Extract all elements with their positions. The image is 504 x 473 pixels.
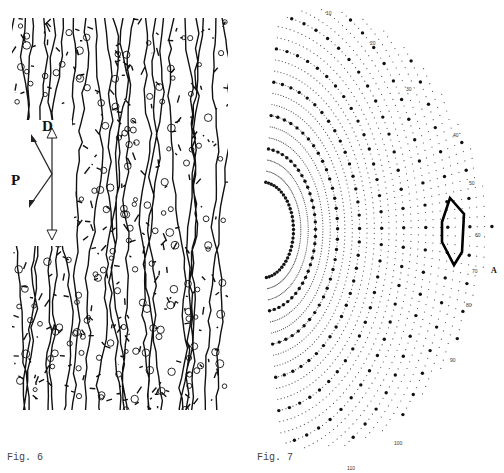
edge-tick: 10 <box>326 10 332 16</box>
edge-tick: 90 <box>450 357 456 363</box>
edge-tick: 100 <box>394 440 402 446</box>
figure-6-caption: Fig. 6 <box>7 452 43 463</box>
lens-outline <box>442 198 464 265</box>
dorsal-label: D <box>42 118 53 135</box>
edge-tick: 20 <box>370 40 376 46</box>
edge-tick: 60 <box>475 232 481 238</box>
edge-tick: 70 <box>472 268 478 274</box>
marker-a-label: A <box>491 266 497 275</box>
posterior-label: P <box>11 172 20 189</box>
edge-tick: 40 <box>453 132 459 138</box>
edge-tick: 30 <box>406 86 412 92</box>
figure-7-dot-grid <box>252 0 504 450</box>
dot-grid-illustration <box>252 0 504 450</box>
edge-tick: 50 <box>469 180 475 186</box>
figure-7-caption: Fig. 7 <box>257 452 293 463</box>
edge-tick: 80 <box>466 302 472 308</box>
edge-tick: 110 <box>347 465 355 471</box>
